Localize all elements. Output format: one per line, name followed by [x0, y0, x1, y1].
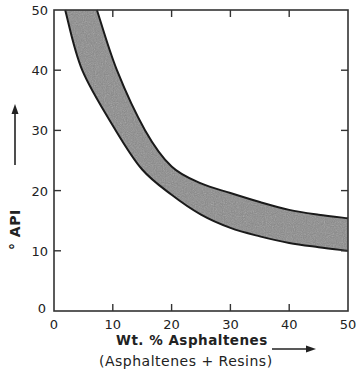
x-tick-label: 0 — [50, 317, 58, 332]
x-axis-label-line2: (Asphaltenes + Resins) — [99, 353, 273, 369]
y-tick-label: 30 — [31, 123, 48, 138]
y-tick-label: 50 — [31, 3, 48, 18]
x-tick-label: 50 — [340, 317, 357, 332]
y-tick-label: 40 — [31, 63, 48, 78]
y-axis-label: ° API — [7, 209, 23, 250]
x-tick-label: 40 — [281, 317, 298, 332]
x-axis-label: Wt. % Asphaltenes — [116, 332, 268, 348]
x-tick-label: 10 — [105, 317, 122, 332]
x-tick-label: 20 — [163, 317, 180, 332]
x-axis-title: Wt. % Asphaltenes (Asphaltenes + Resins) — [99, 332, 316, 369]
x-tick-label: 30 — [222, 317, 239, 332]
y-tick-label: 20 — [31, 184, 48, 199]
data-band — [65, 10, 348, 251]
y-axis-title: ° API — [7, 104, 23, 250]
y-arrowhead-icon — [12, 104, 19, 114]
y-tick-label: 0 — [38, 301, 46, 316]
y-tick-label: 10 — [31, 244, 48, 259]
api-vs-asphaltenes-chart: 0102030405001020304050 ° API Wt. % Aspha… — [0, 0, 362, 375]
x-arrowhead-icon — [306, 346, 316, 353]
